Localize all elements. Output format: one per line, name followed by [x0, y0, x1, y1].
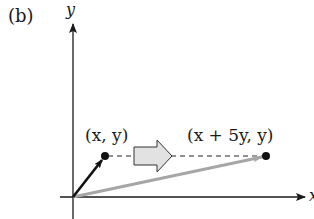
image-vector — [73, 157, 262, 197]
transform-block-arrow-icon — [134, 140, 172, 172]
shear-diagram — [0, 0, 314, 219]
point-original — [101, 152, 109, 160]
point-image — [262, 152, 270, 160]
